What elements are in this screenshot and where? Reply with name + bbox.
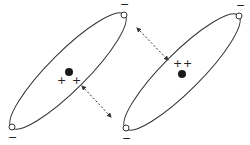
molecule-right xyxy=(112,2,250,142)
end-circle-right-bottom xyxy=(123,125,129,131)
plus-sign-right-1: + xyxy=(173,58,182,69)
plus-sign-left-2: + xyxy=(72,75,81,86)
end-circle-right-top xyxy=(236,13,242,19)
dipole-diagram xyxy=(0,0,250,145)
molecule-left xyxy=(0,1,138,141)
minus-sign-right-top: − xyxy=(236,0,245,11)
plus-sign-right-2: + xyxy=(183,58,192,69)
dashed-arrow-lower xyxy=(82,86,111,117)
minus-sign-right-bottom: − xyxy=(122,133,131,144)
minus-sign-left-bottom: − xyxy=(8,132,17,143)
minus-sign-left-top: − xyxy=(120,0,129,10)
dashed-arrow-upper xyxy=(137,28,168,60)
end-circle-left-bottom xyxy=(9,124,15,130)
end-circle-left-top xyxy=(121,12,127,18)
nucleus-dot-right xyxy=(178,70,186,78)
plus-sign-left-1: + xyxy=(57,75,66,86)
